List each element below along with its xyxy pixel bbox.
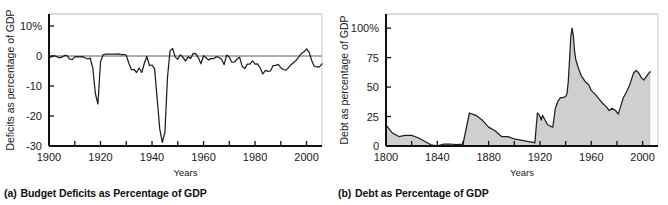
x-tick-label: 2000 xyxy=(294,151,318,163)
chart-panel-budget-deficits: 10%0-10-20-30190019201940196019802000Yea… xyxy=(0,0,334,205)
panel-a-caption-text: Budget Deficits as Percentage of GDP xyxy=(21,187,207,199)
y-axis-title: Deficits as percentage of GDP xyxy=(4,9,16,150)
debt-percentage-chart: 0255075100%180018401880192019602000Years… xyxy=(334,0,668,205)
y-tick-label: -10 xyxy=(26,80,42,92)
y-tick-label: 25 xyxy=(367,111,379,123)
x-tick-label: 1880 xyxy=(476,151,500,163)
panel-b-caption-label: (b) xyxy=(338,187,351,199)
x-axis-title: Years xyxy=(510,167,534,178)
panel-b-caption: (b)Debt as Percentage of GDP xyxy=(338,187,489,199)
x-tick-label: 1960 xyxy=(191,151,215,163)
panel-b-caption-text: Debt as Percentage of GDP xyxy=(355,187,488,199)
x-tick-label: 2000 xyxy=(630,151,654,163)
panel-a-caption-label: (a) xyxy=(4,187,17,199)
x-tick-label: 1980 xyxy=(243,151,267,163)
y-tick-label: 10% xyxy=(20,20,42,32)
y-axis-title: Debt as percentage of GDP xyxy=(338,16,350,145)
x-axis-title: Years xyxy=(174,167,198,178)
y-tick-label: 50 xyxy=(367,81,379,93)
budget-deficits-chart: 10%0-10-20-30190019201940196019802000Yea… xyxy=(0,0,334,205)
x-tick-label: 1920 xyxy=(528,151,552,163)
y-tick-label: 75 xyxy=(367,52,379,64)
x-tick-label: 1900 xyxy=(37,151,61,163)
plot-background xyxy=(49,14,322,146)
x-tick-label: 1960 xyxy=(579,151,603,163)
y-tick-label: 0 xyxy=(36,50,42,62)
x-tick-label: 1940 xyxy=(140,151,164,163)
y-tick-label: 100% xyxy=(351,22,379,34)
x-tick-label: 1920 xyxy=(88,151,112,163)
x-tick-label: 1800 xyxy=(374,151,398,163)
figure-root: 10%0-10-20-30190019201940196019802000Yea… xyxy=(0,0,668,205)
x-tick-label: 1840 xyxy=(425,151,449,163)
chart-panel-debt: 0255075100%180018401880192019602000Years… xyxy=(334,0,668,205)
panel-a-caption: (a)Budget Deficits as Percentage of GDP xyxy=(4,187,207,199)
y-tick-label: -20 xyxy=(26,110,42,122)
